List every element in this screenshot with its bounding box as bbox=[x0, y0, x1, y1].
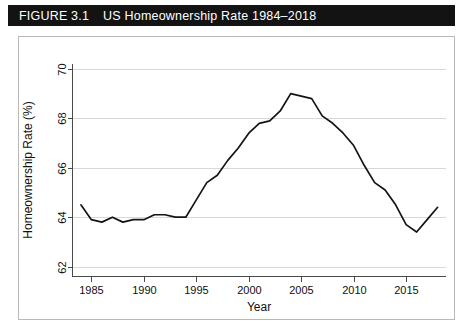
y-tick-label-66: 66 bbox=[56, 162, 68, 174]
x-tick-label-2015: 2015 bbox=[394, 284, 418, 296]
x-tick-label-2000: 2000 bbox=[237, 284, 261, 296]
y-tick-label-68: 68 bbox=[56, 112, 68, 124]
x-tick-label-2005: 2005 bbox=[289, 284, 313, 296]
x-tick-label-2010: 2010 bbox=[342, 284, 366, 296]
x-tick-label-1995: 1995 bbox=[184, 284, 208, 296]
line-chart: 6264666870 1985199019952000200520102015 … bbox=[0, 0, 471, 329]
y-axis-title: Homeownership Rate (%) bbox=[21, 101, 35, 238]
homeownership-rate-line bbox=[81, 94, 438, 232]
gridlines bbox=[73, 70, 447, 268]
x-tick-label-1985: 1985 bbox=[79, 284, 103, 296]
y-tick-label-70: 70 bbox=[56, 63, 68, 75]
x-axis-title: Year bbox=[247, 300, 271, 314]
x-tick-label-1990: 1990 bbox=[132, 284, 156, 296]
y-tick-label-62: 62 bbox=[56, 261, 68, 273]
figure-container: FIGURE 3.1 US Homeownership Rate 1984–20… bbox=[0, 0, 471, 329]
y-axis-ticks: 6264666870 bbox=[56, 63, 73, 273]
x-axis-ticks: 1985199019952000200520102015 bbox=[79, 277, 418, 296]
y-tick-label-64: 64 bbox=[56, 211, 68, 223]
